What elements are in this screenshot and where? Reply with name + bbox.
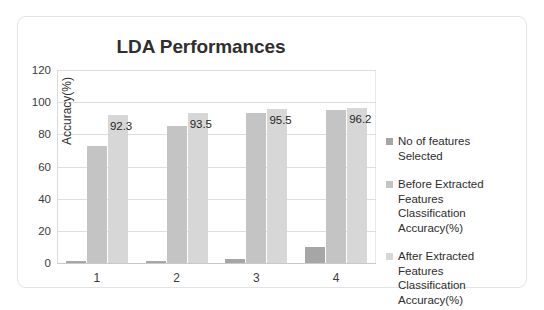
y-axis-tick-label: 80 bbox=[38, 128, 51, 140]
bar-value-label: 93.5 bbox=[190, 118, 212, 130]
bar-value-label: 96.2 bbox=[349, 113, 371, 125]
bar[interactable] bbox=[225, 259, 245, 263]
bar[interactable] bbox=[326, 110, 346, 263]
y-axis-tick-label: 20 bbox=[38, 225, 51, 237]
legend-item[interactable]: After Extracted FeaturesClassification A… bbox=[386, 249, 516, 307]
y-axis-tick-label: 0 bbox=[45, 257, 51, 269]
gridline bbox=[57, 102, 376, 103]
y-axis-tick-label: 120 bbox=[32, 64, 51, 76]
legend-item-label: No of features Selected bbox=[398, 134, 516, 163]
bar[interactable] bbox=[188, 113, 208, 263]
legend-item[interactable]: Before Extracted FeaturesClassification … bbox=[386, 177, 516, 235]
y-axis-title: Accuracy(%) bbox=[60, 68, 74, 154]
bar[interactable] bbox=[347, 108, 367, 263]
bar[interactable] bbox=[246, 113, 266, 263]
bar[interactable] bbox=[66, 261, 86, 263]
y-axis-tick-label: 100 bbox=[32, 96, 51, 108]
bar[interactable] bbox=[87, 146, 107, 263]
chart-legend: No of features SelectedBefore Extracted … bbox=[386, 134, 516, 310]
bar[interactable] bbox=[108, 115, 128, 263]
bar[interactable] bbox=[167, 126, 187, 264]
y-axis-tick-label: 40 bbox=[38, 193, 51, 205]
legend-swatch-icon bbox=[386, 253, 393, 260]
bar[interactable] bbox=[305, 247, 325, 263]
chart-card: LDA Performances 020406080100120 Accurac… bbox=[17, 16, 527, 288]
legend-item[interactable]: No of features Selected bbox=[386, 134, 516, 163]
y-axis-tick-label: 60 bbox=[38, 161, 51, 173]
x-axis-tick-label: 4 bbox=[333, 271, 340, 285]
bar[interactable] bbox=[146, 261, 166, 263]
bar-value-label: 92.3 bbox=[110, 120, 132, 132]
plot-region: 020406080100120 Accuracy(%) 92.393.595.5… bbox=[57, 70, 376, 263]
x-axis-tick-label: 2 bbox=[173, 271, 180, 285]
legend-item-label: After Extracted FeaturesClassification A… bbox=[398, 249, 516, 307]
gridline bbox=[57, 263, 376, 264]
bar-value-label: 95.5 bbox=[269, 114, 291, 126]
bar[interactable] bbox=[267, 109, 287, 263]
legend-swatch-icon bbox=[386, 138, 393, 145]
legend-swatch-icon bbox=[386, 181, 393, 188]
chart-title: LDA Performances bbox=[18, 36, 384, 58]
legend-item-label: Before Extracted FeaturesClassification … bbox=[398, 177, 516, 235]
x-axis-tick-label: 3 bbox=[253, 271, 260, 285]
gridline bbox=[57, 70, 376, 71]
x-axis-tick-label: 1 bbox=[94, 271, 101, 285]
